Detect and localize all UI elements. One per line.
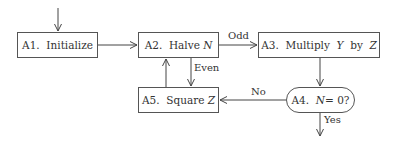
node-a5-var: Z bbox=[208, 94, 215, 106]
node-a2-var: N bbox=[203, 39, 212, 51]
node-a3-label: Multiply bbox=[285, 39, 329, 51]
edge-label-even: Even bbox=[194, 62, 219, 73]
edge-label-yes: Yes bbox=[324, 114, 341, 125]
node-a4-step: A4. bbox=[292, 94, 310, 106]
node-a3-var1: Y bbox=[337, 39, 344, 51]
node-a5-label: Square bbox=[166, 94, 204, 106]
node-a1-label: Initialize bbox=[46, 39, 93, 51]
node-a1-step: A1. bbox=[22, 39, 40, 51]
node-a4-eq: = 0? bbox=[325, 94, 349, 106]
node-a3-multiply: A3. Multiply Y by Z bbox=[258, 32, 380, 58]
node-a4-var: N bbox=[316, 94, 325, 106]
node-a4-test: A4. N= 0? bbox=[286, 87, 355, 113]
node-a5-square: A5. Square Z bbox=[138, 87, 219, 113]
node-a2-halve: A2. Halve N bbox=[138, 32, 219, 58]
node-a5-step: A5. bbox=[142, 94, 160, 106]
node-a3-step: A3. bbox=[261, 39, 279, 51]
node-a2-label: Halve bbox=[169, 39, 200, 51]
node-a1-initialize: A1. Initialize bbox=[17, 32, 98, 58]
node-a2-step: A2. bbox=[145, 39, 163, 51]
edge-label-no: No bbox=[251, 86, 266, 97]
node-a3-by: by bbox=[350, 39, 363, 51]
edge-label-odd: Odd bbox=[228, 30, 249, 41]
node-a3-var2: Z bbox=[370, 39, 377, 51]
